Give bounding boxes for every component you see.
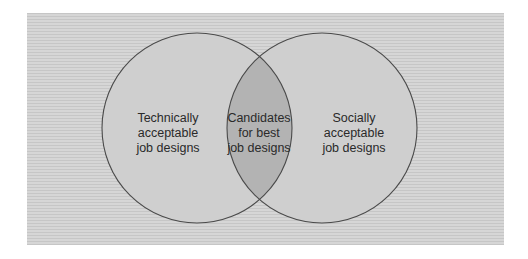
technical-set-label: Technically acceptable job designs	[136, 111, 199, 156]
social-label-line-3: job designs	[322, 141, 385, 156]
social-label-line-1: Socially	[322, 111, 385, 126]
social-label-line-2: acceptable	[322, 126, 385, 141]
technical-label-line-1: Technically	[136, 111, 199, 126]
intersection-label-line-2: for best	[227, 126, 290, 141]
intersection-label-line-3: job designs	[227, 141, 290, 156]
technical-label-line-3: job designs	[136, 141, 199, 156]
social-set-label: Socially acceptable job designs	[322, 111, 385, 156]
intersection-label-line-1: Candidates	[227, 111, 290, 126]
intersection-label: Candidates for best job designs	[227, 111, 290, 156]
technical-label-line-2: acceptable	[136, 126, 199, 141]
